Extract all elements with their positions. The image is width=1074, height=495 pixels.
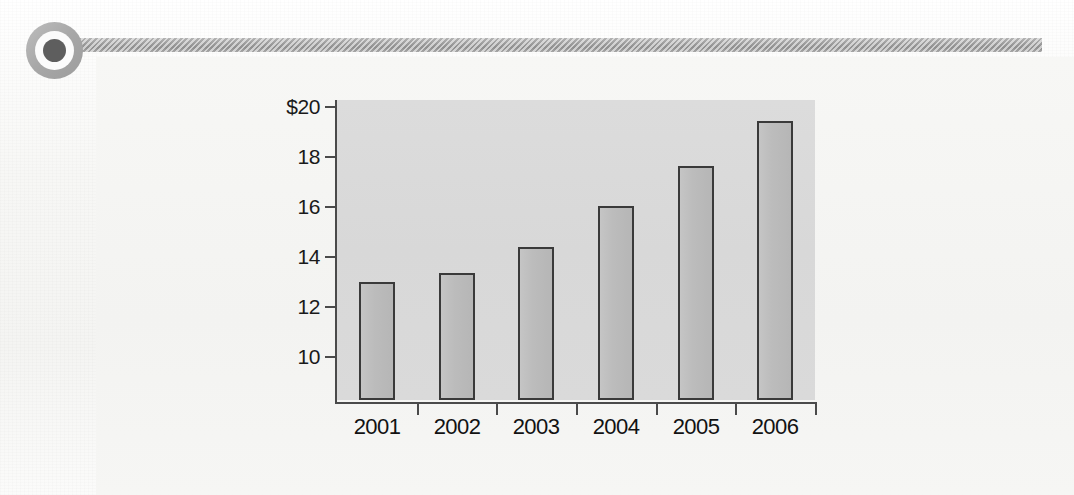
y-axis-tick-label: 16 [297, 195, 320, 219]
y-axis-tick-label: 18 [297, 145, 320, 169]
y-axis-tick-label: 14 [297, 245, 320, 269]
y-axis-tick [325, 306, 335, 308]
x-axis-tick-label: 2006 [752, 414, 799, 440]
x-axis-tick [815, 404, 817, 415]
y-axis-tick [325, 206, 335, 208]
bar-2004 [598, 206, 634, 400]
x-axis-tick-label: 2002 [434, 414, 481, 440]
bar-2006 [757, 121, 793, 400]
y-axis-tick [325, 256, 335, 258]
x-axis-tick [417, 404, 419, 415]
y-axis-tick-label: $20 [286, 95, 320, 119]
y-axis-tick [325, 106, 335, 108]
x-axis-tick-label: 2001 [354, 414, 401, 440]
y-axis-tick [325, 356, 335, 358]
plot-area [337, 100, 815, 400]
x-axis-tick [576, 404, 578, 415]
x-axis-tick [496, 404, 498, 415]
x-axis-tick-label: 2003 [513, 414, 560, 440]
screenshot-page: $201816141210 200120022003200420052006 [0, 0, 1074, 495]
bar-2002 [439, 273, 475, 400]
bar-chart: $201816141210 200120022003200420052006 [0, 0, 1074, 495]
y-axis-tick [325, 156, 335, 158]
x-axis-tick-label: 2004 [593, 414, 640, 440]
y-axis-tick-label: 10 [297, 345, 320, 369]
y-axis-line [335, 100, 337, 404]
x-axis-tick [735, 404, 737, 415]
y-axis-labels: $201816141210 [248, 0, 320, 495]
bar-2005 [678, 166, 714, 400]
bar-2001 [359, 282, 395, 400]
bar-2003 [518, 247, 554, 400]
x-axis-tick-label: 2005 [673, 414, 720, 440]
y-axis-tick-label: 12 [297, 295, 320, 319]
x-axis-tick [656, 404, 658, 415]
